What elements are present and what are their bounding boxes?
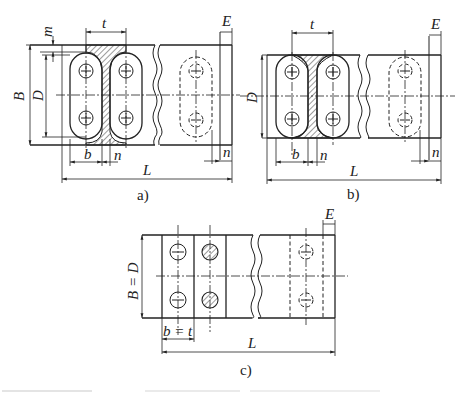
caption-c: c) bbox=[240, 362, 252, 379]
label-b-equals-t: b = t bbox=[163, 323, 193, 339]
pins bbox=[79, 64, 203, 127]
label-n1: n bbox=[114, 147, 122, 163]
panel-b: t D E b n n L b) bbox=[240, 16, 455, 203]
panel-c: E B = D b = t L c) bbox=[125, 206, 348, 379]
label-L: L bbox=[142, 162, 151, 178]
label-n1: n bbox=[320, 147, 328, 163]
label-t: t bbox=[102, 15, 107, 31]
figure-caption-fragment bbox=[250, 390, 380, 392]
label-B: B bbox=[11, 92, 27, 101]
hatched-spacer bbox=[292, 55, 333, 138]
label-D: D bbox=[30, 90, 46, 102]
label-L: L bbox=[349, 163, 358, 179]
label-n2: n bbox=[223, 144, 231, 160]
label-D: D bbox=[244, 92, 260, 104]
label-m: m bbox=[39, 26, 55, 37]
technical-drawing: t m B D E b n n L a) bbox=[0, 0, 471, 395]
label-E: E bbox=[324, 206, 334, 222]
figure-caption-fragment bbox=[145, 390, 240, 392]
figure-caption-fragment bbox=[2, 390, 92, 392]
caption-a: a) bbox=[137, 187, 149, 204]
caption-b: b) bbox=[347, 186, 360, 203]
label-b: b bbox=[84, 146, 92, 162]
label-L: L bbox=[247, 335, 256, 351]
label-B-equals-D: B = D bbox=[125, 262, 141, 300]
label-E: E bbox=[221, 13, 231, 29]
label-E: E bbox=[430, 16, 440, 32]
label-t: t bbox=[310, 16, 315, 32]
label-n2: n bbox=[432, 144, 440, 160]
label-b: b bbox=[292, 146, 300, 162]
panel-a: t m B D E b n n L a) bbox=[11, 13, 240, 204]
